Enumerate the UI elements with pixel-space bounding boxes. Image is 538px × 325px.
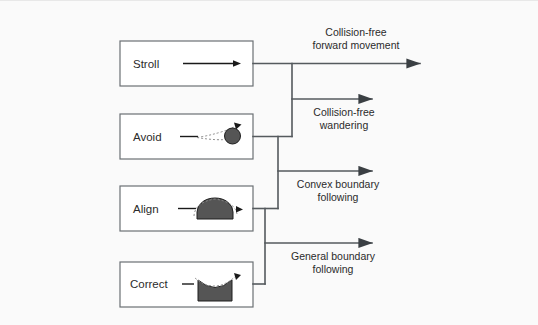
behavior-box-correct[interactable]: Correct <box>120 262 253 307</box>
behaviour-layering-diagram: Stroll Avoid Align <box>0 1 538 325</box>
behavior-label-align: Align <box>133 203 159 215</box>
output-label-line2: following <box>318 191 359 203</box>
behavior-label-stroll: Stroll <box>133 58 159 70</box>
behavior-label-avoid: Avoid <box>133 131 162 143</box>
output-label-line1: Collision-free <box>313 106 374 118</box>
output-label-line1: Convex boundary <box>297 178 380 190</box>
output-label-collision-free-forward-movement: Collision-free forward movement <box>313 26 400 51</box>
behavior-box-avoid[interactable]: Avoid <box>120 114 253 159</box>
output-label-general-boundary-following: General boundary following <box>291 250 376 275</box>
output-label-line2: following <box>313 263 354 275</box>
output-label-line1: Collision-free <box>325 26 386 38</box>
output-label-collision-free-wandering: Collision-free wandering <box>313 106 374 131</box>
behavior-label-correct: Correct <box>130 278 169 290</box>
behavior-box-align[interactable]: Align <box>120 186 253 231</box>
output-label-convex-boundary-following: Convex boundary following <box>297 178 380 203</box>
output-label-line1: General boundary <box>291 250 376 262</box>
output-label-line2: wandering <box>319 119 369 131</box>
diagram-canvas: Stroll Avoid Align <box>0 0 538 325</box>
connector-stroll <box>253 64 292 137</box>
behavior-box-stroll[interactable]: Stroll <box>120 41 253 86</box>
output-label-line2: forward movement <box>313 39 400 51</box>
